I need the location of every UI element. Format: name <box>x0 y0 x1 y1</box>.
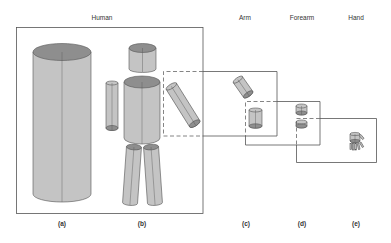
forearm-lower-cylinder <box>296 120 307 128</box>
torso-cylinder <box>124 76 160 144</box>
right-arm-cylinder <box>165 81 201 129</box>
right-leg-cylinder <box>143 144 162 206</box>
head-cylinder <box>129 44 156 73</box>
caption-b: (b) <box>138 220 146 227</box>
lower-arm-cylinder <box>249 108 262 128</box>
caption-c: (c) <box>242 220 250 227</box>
hierarchy-diagram: .f { fill: #c4c4c4; stroke: #555; stroke… <box>0 0 391 243</box>
left-arm-cylinder <box>106 81 118 131</box>
hand-box <box>297 119 377 163</box>
human-cylinder-a <box>33 44 91 203</box>
upper-arm-cylinder <box>232 75 254 99</box>
caption-a: (a) <box>58 220 66 227</box>
caption-d: (d) <box>298 220 306 227</box>
caption-e: (e) <box>352 220 360 227</box>
forearm-upper-cylinder <box>296 104 307 115</box>
left-leg-cylinder <box>122 144 141 206</box>
hand-model <box>350 132 364 150</box>
